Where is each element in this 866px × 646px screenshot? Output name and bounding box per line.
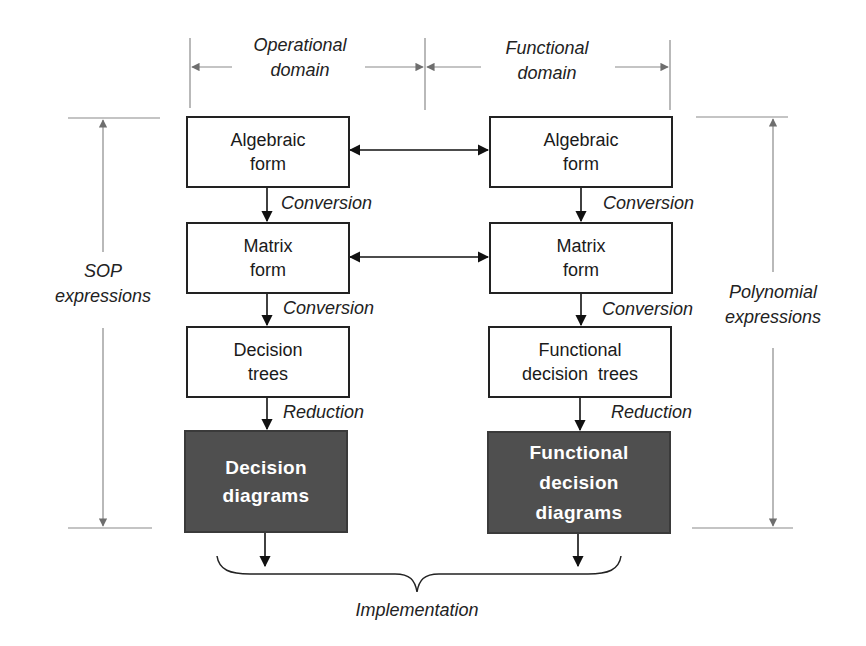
- right-reduction-label: Reduction: [611, 401, 692, 423]
- label-line: Operational: [253, 33, 346, 58]
- left-conversion-label-1: Conversion: [281, 192, 372, 214]
- functional-domain-label: Functional domain: [505, 36, 588, 86]
- box-line: Algebraic: [230, 128, 305, 152]
- left-decision-trees-box: Decision trees: [186, 326, 350, 398]
- box-line: form: [563, 152, 599, 176]
- box-line: form: [250, 152, 286, 176]
- label-line: Polynomial: [725, 280, 821, 305]
- box-line: trees: [248, 362, 288, 386]
- implementation-brace: [217, 556, 621, 592]
- left-algebraic-form-box: Algebraic form: [186, 116, 350, 188]
- left-matrix-form-box: Matrix form: [186, 222, 350, 294]
- label-line: Functional: [505, 36, 588, 61]
- box-line: form: [563, 258, 599, 282]
- right-matrix-form-box: Matrix form: [489, 222, 673, 294]
- polynomial-expressions-label: Polynomial expressions: [725, 280, 821, 330]
- right-conversion-label-2: Conversion: [602, 298, 693, 320]
- box-line: Functional: [529, 438, 628, 468]
- box-line: decision: [539, 468, 618, 498]
- box-line: decision trees: [522, 362, 638, 386]
- right-algebraic-form-box: Algebraic form: [489, 116, 673, 188]
- box-line: Decision: [233, 338, 302, 362]
- box-line: diagrams: [223, 482, 310, 510]
- right-conversion-label-1: Conversion: [603, 192, 694, 214]
- box-line: diagrams: [536, 498, 623, 528]
- box-line: Functional: [538, 338, 621, 362]
- right-functional-decision-diagrams-box: Functional decision diagrams: [487, 431, 671, 534]
- right-functional-decision-trees-box: Functional decision trees: [488, 326, 672, 398]
- left-conversion-label-2: Conversion: [283, 297, 374, 319]
- label-line: SOP: [55, 259, 151, 284]
- box-line: Algebraic: [543, 128, 618, 152]
- box-line: form: [250, 258, 286, 282]
- sop-expressions-label: SOP expressions: [55, 259, 151, 309]
- left-decision-diagrams-box: Decision diagrams: [184, 430, 348, 533]
- left-reduction-label: Reduction: [283, 401, 364, 423]
- box-line: Matrix: [557, 234, 606, 258]
- implementation-label: Implementation: [355, 598, 478, 623]
- label-line: domain: [253, 58, 346, 83]
- box-line: Decision: [225, 454, 307, 482]
- label-line: expressions: [725, 305, 821, 330]
- sop-bracket: [68, 118, 160, 528]
- diagram-canvas: Operational domain Functional domain SOP…: [0, 0, 866, 646]
- label-line: domain: [505, 61, 588, 86]
- box-line: Matrix: [244, 234, 293, 258]
- label-line: expressions: [55, 284, 151, 309]
- operational-domain-label: Operational domain: [253, 33, 346, 83]
